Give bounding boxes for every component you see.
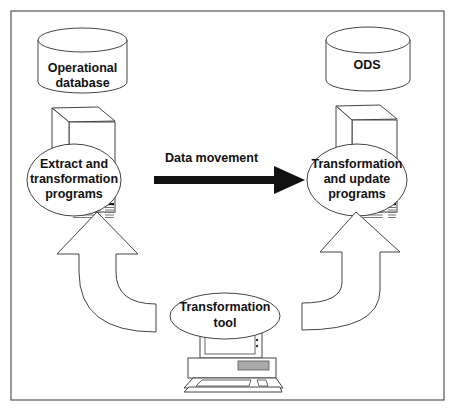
extract-programs-label-1: Extract and: [40, 157, 108, 171]
transformation-tool-node: Transformation tool: [170, 293, 280, 339]
data-movement-label: Data movement: [165, 151, 259, 165]
disk-drive-slot: [238, 361, 269, 370]
data-movement-arrow: Data movement: [154, 151, 305, 194]
transformation-tool-label-1: Transformation: [180, 300, 271, 314]
operational-database-label-1: Operational: [48, 61, 117, 75]
update-programs-label-1: Transformation: [312, 157, 403, 171]
operational-database-label-2: database: [55, 76, 109, 90]
extract-programs-label-2: transformation: [30, 172, 118, 186]
diagram-canvas: Operational database Extract and transfo…: [0, 0, 453, 413]
transformation-tool-label-2: tool: [214, 316, 237, 330]
ods-cylinder: ODS: [326, 27, 410, 91]
left-curved-arrow: [57, 212, 156, 332]
extract-programs-node: Extract and transformation programs: [27, 144, 121, 216]
update-programs-label-2: and update: [324, 172, 391, 186]
ods-label: ODS: [353, 58, 380, 72]
update-programs-label-3: programs: [328, 187, 386, 201]
right-curved-arrow: [302, 212, 400, 330]
update-programs-node: Transformation and update programs: [307, 144, 407, 216]
operational-database-cylinder: Operational database: [38, 28, 127, 93]
extract-programs-label-3: programs: [45, 187, 103, 201]
